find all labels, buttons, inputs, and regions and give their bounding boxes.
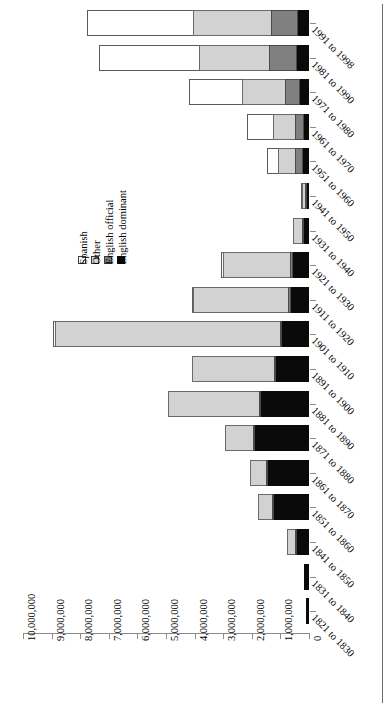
legend-label: English official bbox=[105, 199, 116, 264]
category-tick bbox=[310, 196, 316, 197]
bar-segment bbox=[278, 148, 296, 174]
category-tick bbox=[310, 23, 316, 24]
category-tick bbox=[310, 231, 316, 232]
bar-row bbox=[225, 425, 309, 451]
bar-segment bbox=[274, 494, 309, 520]
value-tick-label: 2,000,000 bbox=[256, 599, 267, 641]
figure-frame-line bbox=[382, 4, 383, 703]
value-tick-label: 9,000,000 bbox=[56, 599, 67, 641]
legend-label: English dominant bbox=[118, 190, 129, 264]
bar-segment bbox=[99, 45, 200, 71]
bar-segment bbox=[271, 10, 298, 36]
bar-segment bbox=[295, 114, 304, 140]
category-tick bbox=[310, 127, 316, 128]
bar-segment bbox=[291, 287, 309, 313]
bar-segment bbox=[192, 356, 276, 382]
category-tick bbox=[310, 92, 316, 93]
value-tick bbox=[280, 633, 281, 639]
bar-segment bbox=[282, 321, 309, 347]
stacked-bar-chart: SpanishOtherEnglish officialEnglish domi… bbox=[0, 0, 386, 707]
bar-segment bbox=[297, 529, 309, 555]
bar-segment bbox=[276, 356, 309, 382]
bar-row bbox=[287, 529, 309, 555]
bar-row bbox=[85, 10, 309, 36]
bar-row bbox=[259, 494, 309, 520]
chart-legend: SpanishOtherEnglish officialEnglish domi… bbox=[78, 152, 138, 264]
value-tick-label: 4,000,000 bbox=[199, 599, 210, 641]
bar-segment bbox=[303, 148, 309, 174]
bar-segment bbox=[297, 45, 309, 71]
bar-row bbox=[51, 321, 309, 347]
value-tick bbox=[23, 633, 24, 639]
bar-segment bbox=[268, 460, 309, 486]
legend-label: Other bbox=[92, 240, 103, 264]
bar-segment bbox=[55, 321, 281, 347]
value-tick bbox=[80, 633, 81, 639]
category-tick bbox=[310, 300, 316, 301]
bar-segment bbox=[261, 391, 309, 417]
bar-segment bbox=[87, 10, 194, 36]
value-tick-label: 0 bbox=[313, 636, 324, 641]
plot-area bbox=[23, 6, 309, 632]
bar-segment bbox=[295, 148, 303, 174]
bar-segment bbox=[247, 114, 274, 140]
value-tick-label: 10,000,000 bbox=[27, 594, 38, 641]
category-tick bbox=[310, 577, 316, 578]
bar-row bbox=[250, 460, 309, 486]
category-tick bbox=[310, 542, 316, 543]
bar-row bbox=[301, 183, 309, 209]
value-tick bbox=[109, 633, 110, 639]
bar-segment bbox=[189, 79, 243, 105]
bar-row bbox=[191, 356, 309, 382]
value-tick-label: 6,000,000 bbox=[141, 599, 152, 641]
bar-row bbox=[219, 252, 309, 278]
bar-segment bbox=[199, 45, 270, 71]
bar-segment bbox=[225, 425, 254, 451]
value-tick-label: 8,000,000 bbox=[84, 599, 95, 641]
category-tick bbox=[310, 404, 316, 405]
value-tick bbox=[166, 633, 167, 639]
value-tick bbox=[137, 633, 138, 639]
bar-row bbox=[187, 79, 309, 105]
value-tick bbox=[309, 633, 310, 639]
bar-segment bbox=[298, 10, 309, 36]
bar-segment bbox=[269, 45, 297, 71]
value-tick bbox=[52, 633, 53, 639]
bar-row bbox=[265, 148, 309, 174]
category-tick bbox=[310, 438, 316, 439]
category-tick bbox=[310, 58, 316, 59]
category-tick bbox=[310, 611, 316, 612]
bar-segment bbox=[223, 252, 290, 278]
category-tick bbox=[310, 369, 316, 370]
bar-segment bbox=[242, 79, 286, 105]
bar-segment bbox=[193, 287, 290, 313]
value-tick bbox=[252, 633, 253, 639]
bar-row bbox=[97, 45, 309, 71]
bar-segment bbox=[306, 598, 309, 624]
legend-item: English dominant bbox=[117, 152, 131, 264]
bar-segment bbox=[300, 79, 309, 105]
value-tick-label: 1,000,000 bbox=[284, 599, 295, 641]
value-tick bbox=[195, 633, 196, 639]
bar-row bbox=[190, 287, 309, 313]
bar-row bbox=[292, 218, 309, 244]
bar-segment bbox=[255, 425, 309, 451]
bar-segment bbox=[193, 10, 272, 36]
bar-segment bbox=[250, 460, 267, 486]
bar-segment bbox=[168, 391, 260, 417]
category-tick bbox=[310, 265, 316, 266]
legend-label: Spanish bbox=[79, 231, 90, 264]
bar-row bbox=[168, 391, 309, 417]
bar-row bbox=[306, 598, 309, 624]
value-tick-label: 5,000,000 bbox=[170, 599, 181, 641]
value-tick-label: 3,000,000 bbox=[227, 599, 238, 641]
bar-segment bbox=[285, 79, 300, 105]
value-tick-label: 7,000,000 bbox=[113, 599, 124, 641]
category-tick bbox=[310, 473, 316, 474]
bar-segment bbox=[273, 114, 296, 140]
bar-row bbox=[245, 114, 309, 140]
bar-segment bbox=[293, 252, 309, 278]
bar-segment bbox=[258, 494, 273, 520]
value-tick bbox=[223, 633, 224, 639]
